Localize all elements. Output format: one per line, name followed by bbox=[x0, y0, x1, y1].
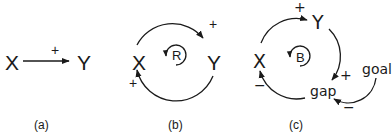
caption-a: (a) bbox=[34, 118, 49, 132]
panel-b: X Y + + R (b) bbox=[129, 16, 221, 132]
polarity-minus-gap-x: − bbox=[254, 77, 266, 93]
link-gap-to-x bbox=[260, 71, 305, 99]
node-gap: gap bbox=[310, 83, 336, 99]
panel-c: X Y gap goal + + − − B (c) bbox=[253, 0, 392, 132]
node-x: X bbox=[132, 51, 146, 74]
link-y-to-gap bbox=[329, 29, 340, 80]
loop-label-r: R bbox=[172, 48, 181, 63]
node-y: Y bbox=[311, 11, 324, 33]
link-x-to-y bbox=[137, 24, 203, 45]
link-x-to-y bbox=[261, 19, 307, 43]
polarity-plus-bottom: + bbox=[129, 75, 137, 91]
loop-label-b: B bbox=[296, 50, 305, 65]
node-x: X bbox=[5, 51, 19, 74]
panel-a: X + Y (a) bbox=[5, 42, 91, 132]
polarity-plus-x-y: + bbox=[294, 0, 306, 15]
caption-b: (b) bbox=[168, 118, 183, 132]
polarity-minus-goal-gap: − bbox=[343, 99, 355, 115]
node-x: X bbox=[253, 50, 266, 72]
caption-c: (c) bbox=[289, 118, 303, 132]
causal-loop-diagrams: X + Y (a) X Y + + R (b) X Y gap goal + +… bbox=[0, 0, 392, 138]
polarity-plus-y-gap: + bbox=[340, 67, 352, 83]
polarity-plus-top: + bbox=[209, 16, 217, 32]
polarity-plus: + bbox=[51, 42, 59, 58]
link-y-to-x bbox=[137, 70, 213, 101]
node-y: Y bbox=[77, 51, 91, 74]
node-y: Y bbox=[207, 51, 221, 74]
node-goal: goal bbox=[362, 61, 392, 77]
